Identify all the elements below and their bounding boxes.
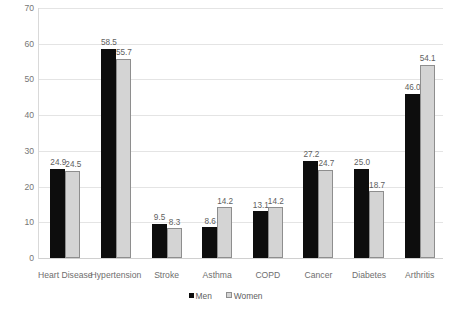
- gridline-0: [38, 258, 443, 259]
- y-tick-label-40: 40: [0, 111, 34, 120]
- bar-women: [167, 228, 182, 258]
- grouped-bar-chart: 24.924.5Heart Disease58.555.7Hypertensio…: [0, 0, 451, 316]
- bar-men: [101, 49, 116, 258]
- bar-value-label: 55.7: [109, 49, 139, 57]
- bar-men: [405, 94, 420, 258]
- y-tick-label-20: 20: [0, 183, 34, 192]
- bar-men: [202, 227, 217, 258]
- bar-group: 58.555.7: [101, 8, 131, 258]
- plot-area: 24.924.5Heart Disease58.555.7Hypertensio…: [38, 8, 443, 258]
- bar-women: [420, 65, 435, 258]
- bar-value-label: 8.3: [160, 219, 190, 227]
- legend-item-men[interactable]: Men: [189, 290, 212, 301]
- bar-value-label: 25.0: [347, 159, 377, 167]
- y-tick-label-50: 50: [0, 75, 34, 84]
- bar-group: 13.114.2: [253, 8, 283, 258]
- y-tick-label-30: 30: [0, 147, 34, 156]
- legend-item-women[interactable]: Women: [226, 290, 263, 301]
- legend-label: Men: [196, 291, 212, 301]
- bar-group: 9.58.3: [152, 8, 182, 258]
- y-tick-label-0: 0: [0, 254, 34, 263]
- bar-value-label: 54.1: [413, 55, 443, 63]
- legend-label: Women: [234, 291, 263, 301]
- bar-value-label: 58.5: [94, 39, 124, 47]
- y-tick-label-70: 70: [0, 4, 34, 13]
- bar-men: [253, 211, 268, 258]
- x-category-label: Arthritis: [383, 270, 451, 281]
- bar-group: 25.018.7: [354, 8, 384, 258]
- y-axis-line: [38, 8, 39, 259]
- bar-women: [268, 207, 283, 258]
- chart-legend: MenWomen: [0, 290, 451, 301]
- bar-women: [116, 59, 131, 258]
- bar-value-label: 14.2: [261, 198, 291, 206]
- bar-men: [50, 169, 65, 258]
- bar-women: [65, 171, 80, 259]
- bar-group: 8.614.2: [202, 8, 232, 258]
- bar-value-label: 24.7: [311, 160, 341, 168]
- bar-women: [318, 170, 333, 258]
- bar-group: 46.054.1: [405, 8, 435, 258]
- bar-value-label: 14.2: [210, 198, 240, 206]
- bar-group: 27.224.7: [303, 8, 333, 258]
- y-tick-label-60: 60: [0, 40, 34, 49]
- bar-value-label: 24.5: [58, 161, 88, 169]
- women-swatch-icon: [226, 292, 232, 298]
- bar-women: [369, 191, 384, 258]
- bar-men: [152, 224, 167, 258]
- bar-group: 24.924.5: [50, 8, 80, 258]
- bar-value-label: 18.7: [362, 182, 392, 190]
- men-swatch-icon: [189, 293, 194, 298]
- bar-women: [217, 207, 232, 258]
- y-tick-label-10: 10: [0, 218, 34, 227]
- y-axis-tick-labels: 010203040506070: [0, 0, 34, 316]
- bar-men: [303, 161, 318, 258]
